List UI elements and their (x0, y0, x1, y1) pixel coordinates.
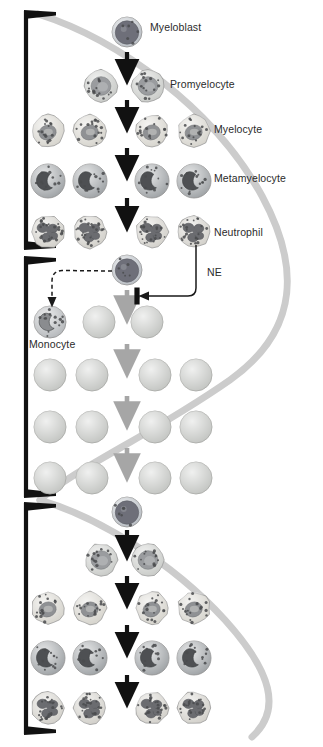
cell-arrested (83, 306, 115, 338)
cell-neutrophil (73, 692, 106, 725)
figure-canvas: Myeloblast Promyelocyte Myelocyte Metamy… (0, 0, 323, 747)
cell-arrested (139, 411, 171, 443)
cell-arrested (139, 462, 171, 494)
label-promyelocyte: Promyelocyte (170, 79, 235, 90)
cell-myelocyte (136, 592, 168, 625)
label-myelocyte: Myelocyte (214, 124, 262, 135)
cell-metamyelocyte (135, 164, 169, 198)
cell-neutrophil (136, 692, 169, 724)
cell-myelocyte (32, 114, 64, 147)
cell-arrested (76, 411, 108, 443)
cell-neutrophil (177, 692, 211, 724)
label-neutrophil: Neutrophil (214, 227, 263, 238)
cell-myeloblast (112, 255, 142, 285)
cell-metamyelocyte (31, 164, 65, 198)
cell-arrested (76, 359, 108, 391)
label-ne: NE (207, 267, 222, 278)
label-metamyelocyte: Metamyelocyte (214, 173, 286, 184)
cell-arrested (34, 359, 66, 391)
cell-promyelocyte (85, 544, 118, 576)
cell-metamyelocyte (177, 641, 211, 675)
cell-myelocyte (74, 591, 107, 625)
cell-metamyelocyte (73, 641, 107, 675)
label-monocyte: Monocyte (29, 339, 75, 350)
cell-metamyelocyte (31, 641, 65, 675)
cell-arrested (76, 462, 108, 494)
cell-neutrophil (136, 216, 169, 248)
cell-metamyelocyte (73, 164, 107, 198)
cell-arrested (139, 359, 171, 391)
cell-metamyelocyte (135, 641, 169, 675)
cell-myeloblast (112, 497, 142, 527)
cell-promyelocyte (131, 70, 164, 102)
diagram-svg (0, 0, 323, 747)
cell-neutrophil (74, 216, 107, 249)
cell-myelocyte (178, 592, 210, 624)
cell-arrested (34, 462, 66, 494)
cell-arrested (180, 411, 212, 443)
cell-monocyte (34, 306, 66, 338)
cell-myelocyte (32, 592, 64, 624)
cell-neutrophil (178, 216, 210, 248)
cell-arrested (131, 306, 163, 338)
cell-promyelocyte (84, 69, 118, 102)
cell-promyelocyte (131, 544, 164, 576)
cell-myeloblast (112, 17, 142, 47)
cell-metamyelocyte (177, 164, 211, 198)
cell-neutrophil (32, 216, 65, 248)
cell-arrested (180, 359, 212, 391)
cell-illustrations (31, 17, 212, 725)
cell-arrested (180, 462, 212, 494)
cell-myelocyte (136, 115, 168, 147)
cell-myelocyte (73, 114, 106, 147)
label-myeloblast: Myeloblast (150, 22, 201, 33)
cell-neutrophil (32, 692, 64, 725)
cell-arrested (34, 411, 66, 443)
